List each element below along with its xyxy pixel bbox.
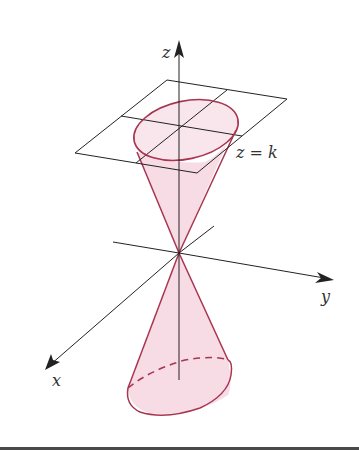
upper-cone [128, 91, 244, 253]
x-axis-label: x [52, 371, 61, 390]
z-axis-label: z [161, 43, 171, 62]
y-arrow-icon [315, 272, 334, 283]
y-axis [179, 253, 330, 279]
plane-label: z = k [235, 143, 278, 162]
cone-diagram: z y x z = k [0, 0, 359, 450]
x-arrow-icon [45, 354, 60, 370]
y-axis-neg [113, 242, 179, 253]
y-axis-label: y [320, 287, 331, 306]
lower-cone [128, 253, 232, 415]
